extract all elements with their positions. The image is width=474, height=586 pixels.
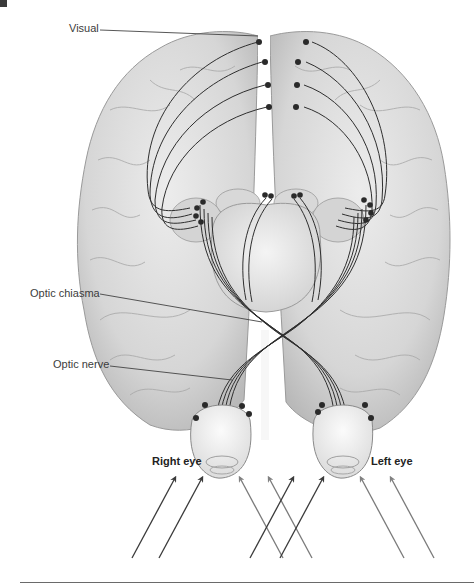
left-eye-globe xyxy=(313,405,373,478)
label-optic-nerve: Optic nerve xyxy=(53,358,109,370)
bottom-rule-line xyxy=(20,582,474,583)
label-visual: Visual xyxy=(69,22,99,34)
label-left-eye: Left eye xyxy=(371,455,413,467)
label-right-eye: Right eye xyxy=(152,455,202,467)
label-optic-chiasma: Optic chiasma xyxy=(30,287,100,299)
right-eye-globe xyxy=(191,405,251,478)
light-ray-arrows xyxy=(132,478,434,558)
